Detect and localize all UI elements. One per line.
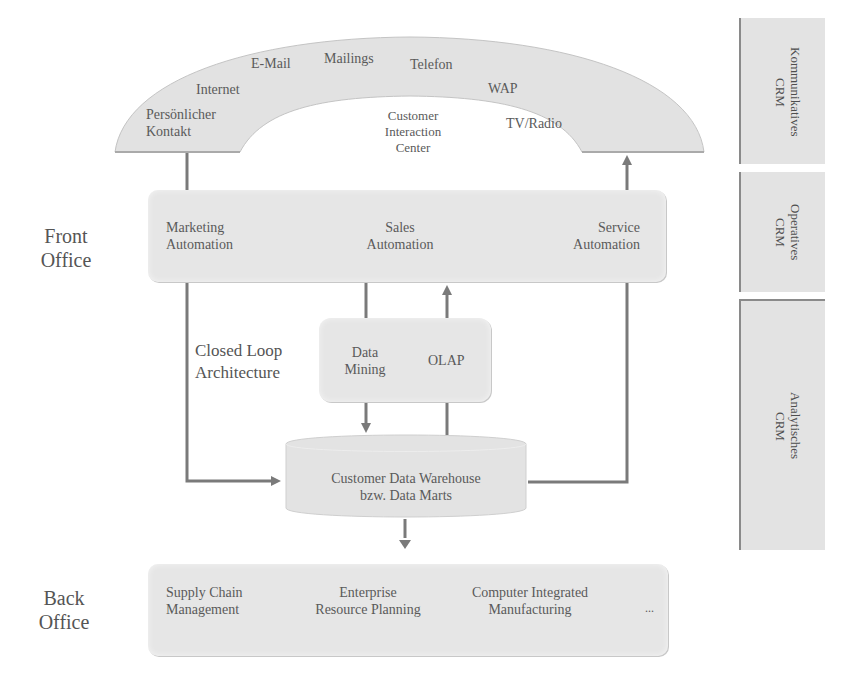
supply-chain-management: Supply Chain Management xyxy=(166,584,243,618)
channel-wap: WAP xyxy=(488,80,518,97)
computer-integrated-manufacturing: Computer Integrated Manufacturing xyxy=(440,584,620,618)
kommunikatives-crm-label: Kommunikatives CRM xyxy=(773,30,803,154)
front-office-label: Front Office xyxy=(26,224,106,272)
channel-tv-radio: TV/Radio xyxy=(506,115,562,132)
channel-mailings: Mailings xyxy=(324,50,374,67)
closed-loop-architecture-label: Closed Loop Architecture xyxy=(195,340,282,384)
more-ellipsis: ... xyxy=(645,600,654,617)
kommunikatives-crm-bar: Kommunikatives CRM xyxy=(739,18,825,164)
operatives-crm-bar: Operatives CRM xyxy=(739,172,825,292)
sales-automation: Sales Automation xyxy=(340,219,460,253)
enterprise-resource-planning: Enterprise Resource Planning xyxy=(288,584,448,618)
arrow-down-icon xyxy=(399,540,411,549)
channel-email: E-Mail xyxy=(251,55,291,72)
marketing-automation: Marketing Automation xyxy=(166,219,233,253)
channel-persoenlicher-kontakt: Persönlicher Kontakt xyxy=(146,106,216,140)
service-automation: Service Automation xyxy=(530,219,640,253)
channel-telefon: Telefon xyxy=(410,56,453,73)
back-office-label: Back Office xyxy=(24,586,104,634)
data-mining: Data Mining xyxy=(330,344,400,378)
analytisches-crm-bar: Analytisches CRM xyxy=(739,299,825,550)
analytisches-crm-label: Analytisches CRM xyxy=(773,361,803,491)
channel-internet: Internet xyxy=(196,81,240,98)
customer-data-warehouse: Customer Data Warehouse bzw. Data Marts xyxy=(286,470,526,504)
operatives-crm-label: Operatives CRM xyxy=(773,182,803,282)
olap: OLAP xyxy=(428,352,465,369)
customer-interaction-center-label: Customer Interaction Center xyxy=(358,108,468,156)
